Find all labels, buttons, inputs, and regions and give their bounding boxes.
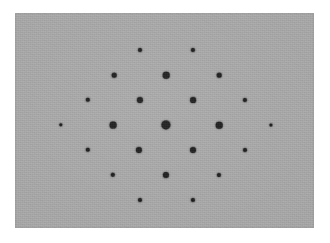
diffraction-spot (110, 122, 117, 129)
diffraction-spot (111, 173, 115, 177)
diffraction-spot (137, 97, 143, 103)
diffraction-spot (269, 123, 272, 126)
diffraction-spot (161, 120, 170, 129)
diffraction-spot (136, 147, 142, 153)
diffraction-spot (163, 172, 169, 178)
diffraction-spot (163, 72, 170, 79)
bragg-spot-layer (15, 13, 314, 228)
diffraction-spot (190, 97, 196, 103)
diffraction-spot (59, 123, 62, 126)
diffraction-spot (86, 148, 90, 152)
diffraction-spot (138, 198, 142, 202)
diffraction-spot (243, 148, 247, 152)
diffraction-spot (138, 48, 142, 52)
diffraction-spot (191, 198, 195, 202)
diffraction-spot (190, 147, 196, 153)
diffraction-spot (112, 73, 117, 78)
diffraction-spot (243, 98, 247, 102)
figure-root (0, 0, 330, 243)
diffraction-pattern-panel (15, 13, 314, 228)
diffraction-spot (217, 173, 221, 177)
diffraction-spot (217, 73, 222, 78)
diffraction-spot (191, 48, 195, 52)
diffraction-spot (216, 122, 223, 129)
diffraction-spot (86, 98, 90, 102)
